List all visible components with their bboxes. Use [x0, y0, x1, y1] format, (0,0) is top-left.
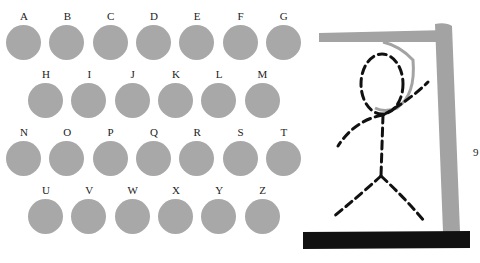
- gallows-beam: [319, 30, 448, 42]
- letter-label: D: [136, 10, 172, 22]
- letter-label: U: [28, 184, 64, 196]
- gallows-post: [435, 23, 460, 232]
- letter-key-a[interactable]: A: [6, 10, 42, 62]
- letter-button[interactable]: [49, 141, 84, 176]
- letter-key-x[interactable]: X: [158, 184, 194, 236]
- letter-key-r[interactable]: R: [179, 126, 215, 178]
- letter-button[interactable]: [223, 25, 258, 60]
- letter-button[interactable]: [179, 141, 214, 176]
- letter-key-c[interactable]: C: [93, 10, 129, 62]
- letter-label: A: [6, 10, 42, 22]
- letter-label: N: [6, 126, 42, 138]
- letter-button[interactable]: [115, 199, 150, 234]
- letter-button[interactable]: [6, 141, 41, 176]
- letter-label: P: [93, 126, 129, 138]
- letter-key-o[interactable]: O: [49, 126, 85, 178]
- letter-button[interactable]: [49, 25, 84, 60]
- letter-label: J: [115, 68, 151, 80]
- letter-label: L: [201, 68, 237, 80]
- letter-key-n[interactable]: N: [6, 126, 42, 178]
- letter-key-l[interactable]: L: [201, 68, 237, 120]
- letter-label: B: [49, 10, 85, 22]
- letter-label: I: [71, 68, 107, 80]
- letter-button[interactable]: [71, 83, 106, 118]
- letter-button[interactable]: [223, 141, 258, 176]
- letter-key-v[interactable]: V: [71, 184, 107, 236]
- gallows-structure: [303, 23, 470, 249]
- letter-key-i[interactable]: I: [71, 68, 107, 120]
- letter-button[interactable]: [71, 199, 106, 234]
- hangman-drawing: [290, 0, 480, 263]
- letter-key-w[interactable]: W: [115, 184, 151, 236]
- letter-label: V: [71, 184, 107, 196]
- letter-button[interactable]: [245, 83, 280, 118]
- letter-key-d[interactable]: D: [136, 10, 172, 62]
- letter-label: R: [179, 126, 215, 138]
- letter-button[interactable]: [245, 199, 280, 234]
- letter-label: K: [158, 68, 194, 80]
- letter-label: Z: [245, 184, 281, 196]
- letter-key-b[interactable]: B: [49, 10, 85, 62]
- letter-key-f[interactable]: F: [223, 10, 259, 62]
- letter-button[interactable]: [6, 25, 41, 60]
- letter-label: H: [28, 68, 64, 80]
- figure-right-leg: [381, 176, 425, 222]
- letter-key-m[interactable]: M: [245, 68, 281, 120]
- letter-key-y[interactable]: Y: [201, 184, 237, 236]
- letter-key-h[interactable]: H: [28, 68, 64, 120]
- letter-button[interactable]: [158, 83, 193, 118]
- letter-button[interactable]: [28, 83, 63, 118]
- letter-key-q[interactable]: Q: [136, 126, 172, 178]
- letter-label: O: [49, 126, 85, 138]
- letter-label: Y: [201, 184, 237, 196]
- letter-button[interactable]: [179, 25, 214, 60]
- letter-button[interactable]: [136, 141, 171, 176]
- letter-label: X: [158, 184, 194, 196]
- remaining-guesses-counter: 9: [473, 146, 479, 158]
- letter-label: Q: [136, 126, 172, 138]
- letter-key-p[interactable]: P: [93, 126, 129, 178]
- letter-label: C: [93, 10, 129, 22]
- letter-button[interactable]: [158, 199, 193, 234]
- letter-label: M: [245, 68, 281, 80]
- letter-key-s[interactable]: S: [223, 126, 259, 178]
- letter-button[interactable]: [93, 141, 128, 176]
- letter-button[interactable]: [93, 25, 128, 60]
- letter-button[interactable]: [28, 199, 63, 234]
- letter-button[interactable]: [136, 25, 171, 60]
- figure-left-arm: [338, 115, 383, 146]
- letter-key-u[interactable]: U: [28, 184, 64, 236]
- letter-button[interactable]: [115, 83, 150, 118]
- letter-label: F: [223, 10, 259, 22]
- letter-label: S: [223, 126, 259, 138]
- figure-head: [361, 54, 403, 114]
- letter-key-j[interactable]: J: [115, 68, 151, 120]
- figure-left-leg: [332, 176, 381, 218]
- letter-button[interactable]: [201, 83, 236, 118]
- letter-label: E: [179, 10, 215, 22]
- letter-button[interactable]: [201, 199, 236, 234]
- letter-key-k[interactable]: K: [158, 68, 194, 120]
- figure-body: [381, 115, 383, 176]
- letter-label: W: [115, 184, 151, 196]
- letter-key-e[interactable]: E: [179, 10, 215, 62]
- letter-key-z[interactable]: Z: [245, 184, 281, 236]
- gallows-base: [303, 231, 470, 249]
